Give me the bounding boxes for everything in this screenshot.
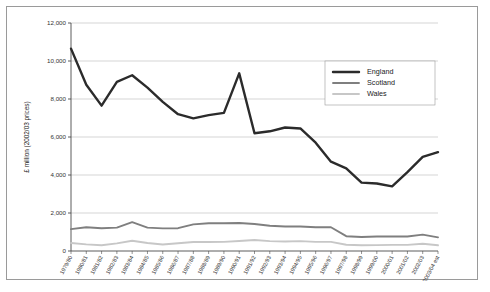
x-axis-tick-label: 1998/99 — [349, 255, 364, 276]
y-axis-tick-label: 12,000 — [47, 19, 66, 26]
y-axis-tick-label: 6,000 — [51, 133, 67, 140]
x-axis-tick-label: 1991/92 — [242, 255, 257, 276]
x-axis-tick-label: 1993/94 — [273, 255, 288, 276]
x-axis-tick-label: 1980/81 — [74, 255, 89, 276]
x-axis-tick-label: 2002/03 — [410, 255, 425, 276]
x-axis-tick-label: 1989/90 — [212, 255, 227, 276]
x-axis-tick-label: 1992/93 — [257, 255, 272, 276]
x-axis-tick-label: 1999/00 — [364, 255, 379, 276]
x-axis-tick-label: 1984/85 — [135, 255, 150, 276]
x-axis-tick-label: 2000/01 — [380, 255, 395, 276]
x-axis-tick-label: 1981/82 — [89, 255, 104, 276]
y-axis-tick-label: 10,000 — [47, 57, 66, 64]
x-axis-tick-label: 2001/02 — [395, 255, 410, 276]
line-chart: 12,00010,0008,0006,0004,0002,00001979/80… — [7, 7, 479, 281]
x-axis-tick-label: 1982/83 — [104, 255, 119, 276]
y-axis-tick-label: 2,000 — [51, 209, 67, 216]
x-axis-tick-label: 1994/95 — [288, 255, 303, 276]
x-axis-tick-label: 1986/87 — [166, 255, 181, 276]
y-axis-tick-label: 0 — [63, 247, 67, 254]
legend-label-england: England — [367, 67, 393, 76]
x-axis-tick-label: 1979/80 — [59, 255, 74, 276]
y-axis-tick-label: 4,000 — [51, 171, 67, 178]
x-axis-tick-label: 1983/84 — [120, 255, 135, 276]
legend-label-wales: Wales — [367, 89, 387, 98]
chart-frame: 12,00010,0008,0006,0004,0002,00001979/80… — [6, 6, 478, 280]
x-axis-tick-label: 1995/96 — [303, 255, 318, 276]
y-axis-tick-label: 8,000 — [51, 95, 67, 102]
x-axis-tick-label: 1997/98 — [334, 255, 349, 276]
series-line-scotland — [71, 222, 438, 237]
series-line-wales — [71, 240, 438, 245]
x-axis-tick-label: 1996/97 — [319, 255, 334, 276]
y-axis-title: £ million (2002/03 prices) — [23, 101, 31, 172]
x-axis-tick-label: 1985/86 — [150, 255, 165, 276]
x-axis-tick-label: 1988/89 — [196, 255, 211, 276]
legend-label-scotland: Scotland — [367, 78, 395, 87]
x-axis-tick-label: 1990/91 — [227, 255, 242, 276]
x-axis-tick-label: 1987/88 — [181, 255, 196, 276]
